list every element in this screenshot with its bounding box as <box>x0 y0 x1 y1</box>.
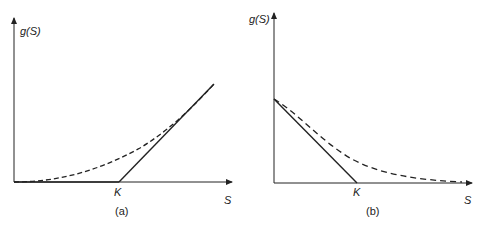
payoff-solid <box>274 99 357 183</box>
panel-a <box>14 18 232 182</box>
y-axis-label: g(S) <box>20 25 41 37</box>
x-axis-label: S <box>464 194 471 206</box>
panel-b <box>274 13 472 183</box>
y-axis-label: g(S) <box>249 13 270 25</box>
diagram-canvas <box>0 0 484 226</box>
value-dashed <box>14 84 214 182</box>
strike-label: K <box>353 186 360 198</box>
strike-label: K <box>114 186 121 198</box>
caption-a: (a) <box>115 205 128 217</box>
caption-b: (b) <box>366 205 379 217</box>
x-axis-label: S <box>224 194 231 206</box>
value-dashed <box>274 99 462 182</box>
